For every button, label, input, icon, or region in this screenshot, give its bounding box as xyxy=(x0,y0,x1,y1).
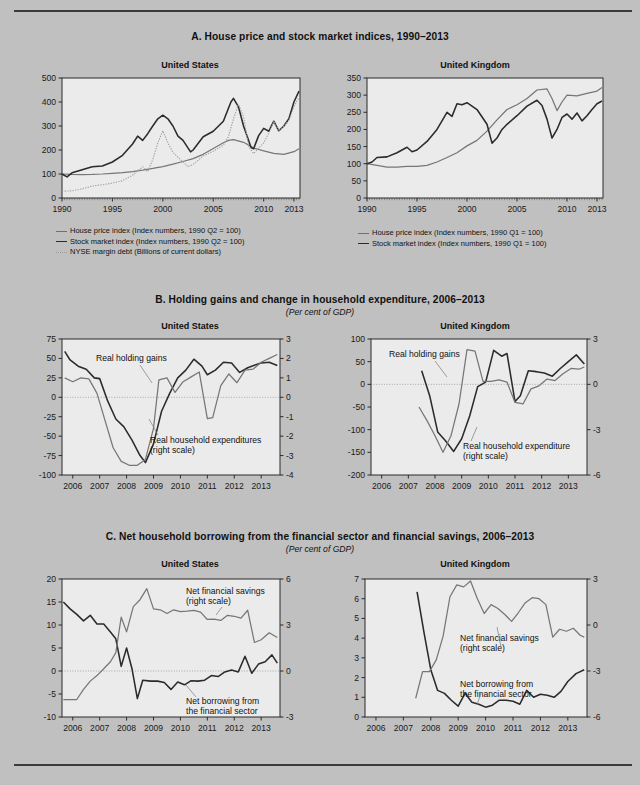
svg-text:2: 2 xyxy=(354,673,359,683)
legend-label: Stock market index (Index numbers, 1990 … xyxy=(372,239,546,250)
svg-text:4: 4 xyxy=(354,633,359,643)
svg-text:1: 1 xyxy=(354,692,359,702)
svg-text:-5: -5 xyxy=(48,689,56,699)
svg-text:2: 2 xyxy=(286,353,291,363)
svg-text:2007: 2007 xyxy=(90,481,109,491)
svg-text:-10: -10 xyxy=(44,712,57,722)
line-swatch-icon xyxy=(358,233,369,234)
svg-text:2010: 2010 xyxy=(476,723,495,733)
svg-text:350: 350 xyxy=(347,73,362,83)
legend-a-us: House price index (Index numbers, 1990 Q… xyxy=(56,226,244,258)
svg-text:1990: 1990 xyxy=(52,204,71,214)
svg-text:2009: 2009 xyxy=(452,481,471,491)
legend-label: House price index (Index numbers, 1990 Q… xyxy=(372,228,543,239)
panel-b-uk-heading: United Kingdom xyxy=(415,321,535,331)
svg-text:2009: 2009 xyxy=(144,723,163,733)
svg-text:-100: -100 xyxy=(348,425,365,435)
svg-text:Net borrowing fromthe financia: Net borrowing fromthe financial sector xyxy=(460,679,533,699)
svg-text:2010: 2010 xyxy=(479,481,498,491)
svg-text:100: 100 xyxy=(351,334,366,344)
svg-text:2012: 2012 xyxy=(532,481,551,491)
chart-a-us: 0100200300400500199019952000200520102013 xyxy=(18,70,318,220)
legend-item: Stock market index (Index numbers, 1990 … xyxy=(358,239,546,250)
svg-text:2006: 2006 xyxy=(372,481,391,491)
svg-text:0: 0 xyxy=(593,379,598,389)
svg-text:0: 0 xyxy=(51,193,56,203)
panel-b-us-heading: United States xyxy=(130,321,250,331)
legend-item: House price index (Index numbers, 1990 Q… xyxy=(358,228,546,239)
svg-text:2013: 2013 xyxy=(558,723,577,733)
legend-item: House price index (Index numbers, 1990 Q… xyxy=(56,226,244,237)
svg-text:0: 0 xyxy=(51,666,56,676)
legend-a-uk: House price index (Index numbers, 1990 Q… xyxy=(358,228,546,249)
svg-text:Real holding gains: Real holding gains xyxy=(389,349,460,359)
svg-text:1990: 1990 xyxy=(357,204,376,214)
svg-text:1995: 1995 xyxy=(407,204,426,214)
svg-text:2013: 2013 xyxy=(252,481,271,491)
svg-text:0: 0 xyxy=(593,620,598,630)
svg-text:0: 0 xyxy=(286,392,291,402)
legend-label: Stock market index (Index numbers, 1990 … xyxy=(70,237,244,248)
panel-c-us-heading: United States xyxy=(130,559,250,569)
svg-text:-75: -75 xyxy=(44,451,57,461)
svg-text:50: 50 xyxy=(46,353,56,363)
svg-text:200: 200 xyxy=(347,124,362,134)
svg-text:150: 150 xyxy=(347,142,362,152)
svg-text:0: 0 xyxy=(360,379,365,389)
svg-text:-200: -200 xyxy=(348,470,365,480)
svg-text:2006: 2006 xyxy=(63,481,82,491)
svg-text:-150: -150 xyxy=(348,447,365,457)
svg-text:2010: 2010 xyxy=(254,204,273,214)
figure-root: A. House price and stock market indices,… xyxy=(0,0,640,785)
legend-item: NYSE margin debt (Billions of current do… xyxy=(56,247,244,258)
svg-text:-3: -3 xyxy=(593,425,601,435)
svg-text:2011: 2011 xyxy=(198,481,217,491)
svg-text:2005: 2005 xyxy=(204,204,223,214)
svg-text:3: 3 xyxy=(593,574,598,584)
svg-text:25: 25 xyxy=(46,373,56,383)
svg-text:3: 3 xyxy=(286,620,291,630)
svg-text:0: 0 xyxy=(356,193,361,203)
dotted-line-swatch-icon xyxy=(56,252,67,253)
svg-text:-6: -6 xyxy=(593,712,601,722)
svg-text:2006: 2006 xyxy=(63,723,82,733)
panel-a-us-heading: United States xyxy=(130,60,250,70)
svg-text:6: 6 xyxy=(286,574,291,584)
svg-text:100: 100 xyxy=(42,169,57,179)
svg-text:50: 50 xyxy=(351,176,361,186)
svg-text:2008: 2008 xyxy=(421,723,440,733)
svg-text:1995: 1995 xyxy=(103,204,122,214)
svg-text:250: 250 xyxy=(347,107,362,117)
svg-text:0: 0 xyxy=(354,712,359,722)
svg-text:5: 5 xyxy=(354,613,359,623)
svg-text:2011: 2011 xyxy=(504,723,523,733)
svg-text:0: 0 xyxy=(286,666,291,676)
svg-text:-50: -50 xyxy=(353,402,366,412)
chart-b-us: -100-75-50-250255075-4-3-2-1012320062007… xyxy=(18,331,318,499)
svg-text:20: 20 xyxy=(46,574,56,584)
svg-text:2011: 2011 xyxy=(198,723,217,733)
svg-text:2008: 2008 xyxy=(117,723,136,733)
svg-text:3: 3 xyxy=(286,334,291,344)
svg-text:2007: 2007 xyxy=(394,723,413,733)
svg-text:2009: 2009 xyxy=(144,481,163,491)
svg-text:-3: -3 xyxy=(286,451,294,461)
svg-text:2000: 2000 xyxy=(153,204,172,214)
top-rule xyxy=(14,10,632,12)
svg-text:100: 100 xyxy=(347,159,362,169)
legend-label: House price index (Index numbers, 1990 Q… xyxy=(70,226,241,237)
svg-text:2012: 2012 xyxy=(225,481,244,491)
chart-b-uk: -200-150-100-50050100-6-3032006200720082… xyxy=(325,331,625,499)
svg-text:75: 75 xyxy=(46,334,56,344)
svg-text:2012: 2012 xyxy=(225,723,244,733)
line-swatch-icon xyxy=(56,231,67,232)
svg-text:-3: -3 xyxy=(286,712,294,722)
svg-text:6: 6 xyxy=(354,594,359,604)
panel-c-uk-heading: United Kingdom xyxy=(415,559,535,569)
legend-label: NYSE margin debt (Billions of current do… xyxy=(70,247,221,258)
bottom-rule xyxy=(14,764,632,766)
svg-text:2008: 2008 xyxy=(425,481,444,491)
panel-c-title: C. Net household borrowing from the fina… xyxy=(0,531,640,542)
svg-text:300: 300 xyxy=(42,121,57,131)
svg-text:7: 7 xyxy=(354,574,359,584)
